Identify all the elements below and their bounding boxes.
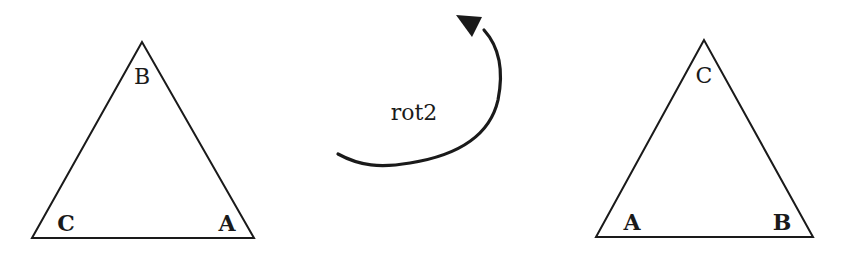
triangle-after-vertex-bottom-right: B bbox=[773, 209, 792, 235]
diagram-canvas: B C A rot2 C A B bbox=[0, 0, 849, 260]
rotation-diagram: B C A rot2 C A B bbox=[0, 0, 849, 260]
curved-arrow-icon: rot2 bbox=[338, 15, 501, 166]
triangle-after-vertex-top: C bbox=[696, 63, 713, 88]
rotation-arrow-head bbox=[456, 15, 482, 37]
rotation-label: rot2 bbox=[391, 100, 438, 125]
rotation-arrow-shaft bbox=[338, 30, 501, 166]
triangle-before-vertex-bottom-right: A bbox=[217, 210, 236, 236]
triangle-before-vertex-bottom-left: C bbox=[57, 210, 75, 236]
triangle-after-vertex-bottom-left: A bbox=[622, 209, 641, 235]
triangle-before: B C A bbox=[32, 42, 254, 238]
triangle-after: C A B bbox=[596, 40, 813, 237]
triangle-before-vertex-top: B bbox=[134, 64, 150, 89]
